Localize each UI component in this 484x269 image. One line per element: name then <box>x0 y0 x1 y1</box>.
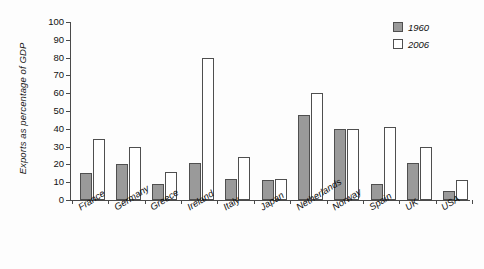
empty-white-swatch-icon <box>393 39 403 49</box>
y-axis-tick-label: 70 <box>38 70 64 79</box>
filled-gray-swatch-icon <box>393 22 403 32</box>
bar-group <box>80 22 105 200</box>
y-axis-tick <box>66 40 70 41</box>
legend-item: 2006 <box>393 37 467 51</box>
bar <box>311 93 323 200</box>
y-axis-tick-label: 20 <box>38 159 64 168</box>
bar-chart: Exports as percentage of GDP 01020304050… <box>0 0 484 269</box>
y-axis-tick-label: 30 <box>38 142 64 151</box>
y-axis-tick-label: 40 <box>38 124 64 133</box>
y-axis-tick <box>66 75 70 76</box>
y-axis-tick-label: 10 <box>38 177 64 186</box>
y-axis-title: Exports as percentage of GDP <box>17 24 28 194</box>
chart-legend: 1960 2006 <box>393 20 467 54</box>
bar <box>238 157 250 200</box>
y-axis-tick-label: 80 <box>38 53 64 62</box>
bar <box>420 147 432 200</box>
bar-group <box>262 22 287 200</box>
legend-label: 2006 <box>408 39 429 50</box>
y-axis-tick <box>66 147 70 148</box>
y-axis-tick <box>66 58 70 59</box>
y-axis-tick <box>66 93 70 94</box>
y-axis-tick-label: 100 <box>38 17 64 26</box>
y-axis-tick-labels: 0102030405060708090100 <box>36 22 64 202</box>
y-axis-tick <box>66 182 70 183</box>
y-axis-tick-label: 90 <box>38 35 64 44</box>
bar <box>384 127 396 200</box>
bar-group <box>225 22 250 200</box>
y-axis-tick-label: 60 <box>38 88 64 97</box>
bar-group <box>189 22 214 200</box>
bar <box>407 163 419 200</box>
legend-item: 1960 <box>393 20 467 34</box>
bar-group <box>152 22 177 200</box>
y-axis-tick-label: 0 <box>38 195 64 204</box>
bar-group <box>116 22 141 200</box>
y-axis-tick <box>66 200 70 201</box>
y-axis-line <box>70 22 71 201</box>
y-axis-tick <box>66 111 70 112</box>
bar-group <box>298 22 323 200</box>
y-axis-tick <box>66 164 70 165</box>
x-axis-category-labels: FranceGermanyGreeceIrelandItalyJapanNeth… <box>70 203 484 269</box>
y-axis-tick-label: 50 <box>38 106 64 115</box>
y-axis-tick <box>66 22 70 23</box>
legend-label: 1960 <box>408 22 429 33</box>
bar-group <box>334 22 359 200</box>
bar <box>202 58 214 200</box>
bar-group <box>371 22 396 200</box>
y-axis-tick <box>66 129 70 130</box>
bar <box>298 115 310 200</box>
